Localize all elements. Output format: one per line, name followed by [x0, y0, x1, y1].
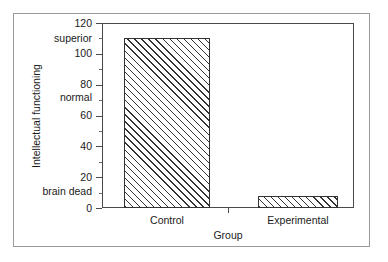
bar-experimental[interactable]	[258, 196, 338, 208]
y-tick-label-40: 40	[80, 141, 92, 152]
x-tick-mid	[228, 208, 229, 213]
y-tick-label-0: 0	[86, 203, 92, 214]
y-category-label-superior: superior	[54, 33, 92, 44]
x-tick-label-control: Control	[127, 214, 207, 226]
y-axis-title: Intellectual functioning	[30, 36, 42, 196]
y-tick-label-20: 20	[80, 172, 92, 183]
y-category-label-brain-dead: brain dead	[42, 186, 92, 197]
bar-control[interactable]	[124, 38, 210, 208]
y-tick-label-80: 80	[80, 79, 92, 90]
x-axis-title: Group	[102, 229, 354, 241]
y-tick-label-60: 60	[80, 110, 92, 121]
y-tick-label-120: 120	[74, 18, 92, 29]
x-tick-label-experimental: Experimental	[253, 214, 343, 226]
y-tick-label-100: 100	[74, 48, 92, 59]
y-category-label-normal: normal	[60, 92, 92, 103]
y-tick-0	[96, 208, 102, 209]
chart-figure: Intellectual functioning 120 100 80 60 4…	[0, 0, 388, 262]
